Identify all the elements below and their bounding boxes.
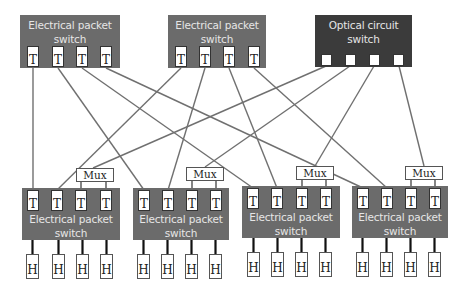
switch-label-line2: switch bbox=[22, 226, 120, 241]
link-ocs.P4-to-bs4.mux bbox=[399, 66, 424, 166]
transceiver-port[interactable]: T bbox=[76, 46, 88, 67]
switch-label-line1: Electrical packet bbox=[22, 212, 120, 227]
host-box[interactable]: H bbox=[100, 254, 113, 279]
mux-box[interactable]: Mux bbox=[296, 166, 334, 180]
transceiver-port[interactable]: T bbox=[210, 190, 222, 211]
optical-port[interactable] bbox=[321, 54, 332, 66]
switch-label-line1: Optical circuit bbox=[315, 18, 412, 33]
mux-box[interactable]: Mux bbox=[76, 168, 114, 182]
transceiver-port[interactable]: T bbox=[405, 188, 417, 209]
host-box[interactable]: H bbox=[137, 254, 150, 279]
transceiver-port[interactable]: T bbox=[186, 190, 198, 211]
host-box[interactable]: H bbox=[380, 252, 393, 277]
transceiver-port[interactable]: T bbox=[248, 46, 260, 67]
optical-port[interactable] bbox=[345, 54, 356, 66]
switch-label-line2: switch bbox=[315, 32, 412, 47]
transceiver-port[interactable]: T bbox=[271, 188, 283, 209]
transceiver-port[interactable]: T bbox=[247, 188, 259, 209]
transceiver-port[interactable]: T bbox=[52, 46, 64, 67]
switch-label-line2: switch bbox=[133, 226, 229, 241]
switch-label-line1: Electrical packet bbox=[168, 18, 266, 33]
transceiver-port[interactable]: T bbox=[429, 188, 441, 209]
host-box[interactable]: H bbox=[76, 254, 89, 279]
host-box[interactable]: H bbox=[52, 254, 65, 279]
transceiver-port[interactable]: T bbox=[100, 190, 112, 211]
transceiver-port[interactable]: T bbox=[175, 46, 187, 67]
transceiver-port[interactable]: T bbox=[51, 190, 63, 211]
link-ocs.P3-to-bs3.mux bbox=[315, 66, 374, 166]
host-box[interactable]: H bbox=[356, 252, 369, 277]
switch-label-line2: switch bbox=[168, 32, 266, 47]
switch-label-line1: Electrical packet bbox=[133, 212, 229, 227]
host-box[interactable]: H bbox=[319, 252, 332, 277]
transceiver-port[interactable]: T bbox=[199, 46, 211, 67]
switch-label-line1: Electrical packet bbox=[352, 210, 448, 225]
host-box[interactable]: H bbox=[247, 252, 260, 277]
transceiver-port[interactable]: T bbox=[357, 188, 369, 209]
link-ocs.P2-to-bs2.mux bbox=[205, 66, 350, 167]
transceiver-port[interactable]: T bbox=[320, 188, 332, 209]
optical-port[interactable] bbox=[393, 54, 404, 66]
host-box[interactable]: H bbox=[295, 252, 308, 277]
transceiver-port[interactable]: T bbox=[162, 190, 174, 211]
host-box[interactable]: H bbox=[26, 254, 39, 279]
transceiver-port[interactable]: T bbox=[223, 46, 235, 67]
transceiver-port[interactable]: T bbox=[27, 46, 39, 67]
transceiver-port[interactable]: T bbox=[296, 188, 308, 209]
switch-label-line2: switch bbox=[20, 32, 120, 47]
transceiver-port[interactable]: T bbox=[100, 46, 112, 67]
switch-label-line2: switch bbox=[352, 224, 448, 239]
switch-label-line1: Electrical packet bbox=[20, 18, 120, 33]
mux-box[interactable]: Mux bbox=[186, 167, 224, 181]
host-box[interactable]: H bbox=[428, 252, 441, 277]
link-ts2.T3-to-bs3.T2 bbox=[229, 68, 277, 188]
switch-label-line2: switch bbox=[242, 224, 340, 239]
host-box[interactable]: H bbox=[185, 254, 198, 279]
host-box[interactable]: H bbox=[209, 254, 222, 279]
link-ocs.P1-to-bs1.mux bbox=[93, 66, 326, 168]
switch-label-line1: Electrical packet bbox=[242, 210, 340, 225]
transceiver-port[interactable]: T bbox=[27, 190, 39, 211]
transceiver-port[interactable]: T bbox=[138, 190, 150, 211]
optical-port[interactable] bbox=[369, 54, 380, 66]
mux-box[interactable]: Mux bbox=[405, 166, 443, 180]
transceiver-port[interactable]: T bbox=[75, 190, 87, 211]
host-box[interactable]: H bbox=[404, 252, 417, 277]
host-box[interactable]: H bbox=[271, 252, 284, 277]
host-box[interactable]: H bbox=[161, 254, 174, 279]
transceiver-port[interactable]: T bbox=[381, 188, 393, 209]
